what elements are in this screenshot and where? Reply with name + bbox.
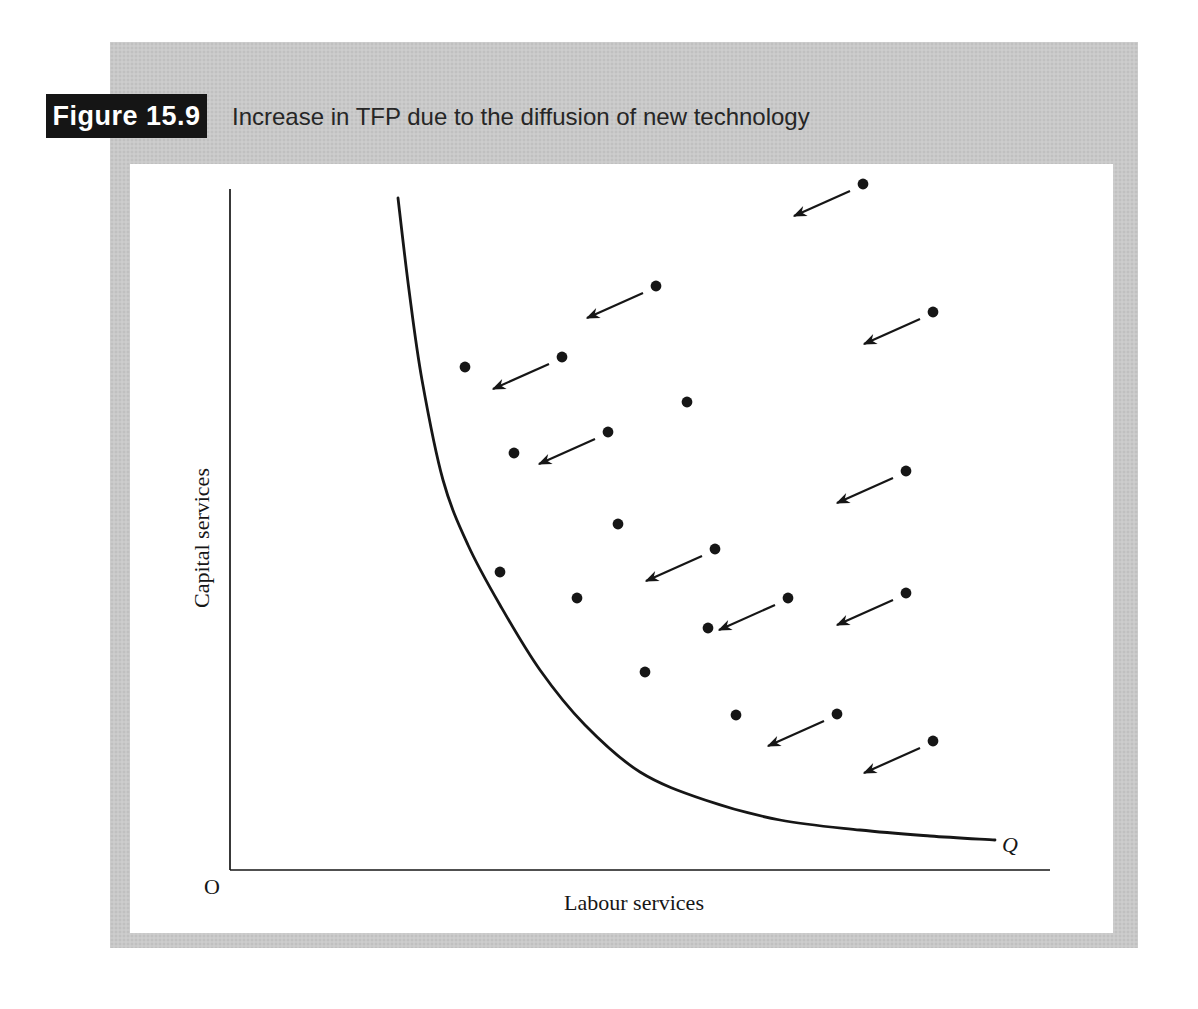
origin-label: O [204,874,220,900]
x-axis-label: Labour services [564,890,704,916]
figure-number-badge: Figure 15.9 [46,94,207,138]
textbook-figure-page: Figure 15.9 Increase in TFP due to the d… [0,0,1198,1009]
isoquant-curve-label: Q [1002,832,1018,858]
figure-title: Increase in TFP due to the diffusion of … [232,102,810,132]
chart-panel [130,164,1113,933]
figure-number-text: Figure 15.9 [52,101,200,132]
y-axis-label: Capital services [189,468,215,608]
